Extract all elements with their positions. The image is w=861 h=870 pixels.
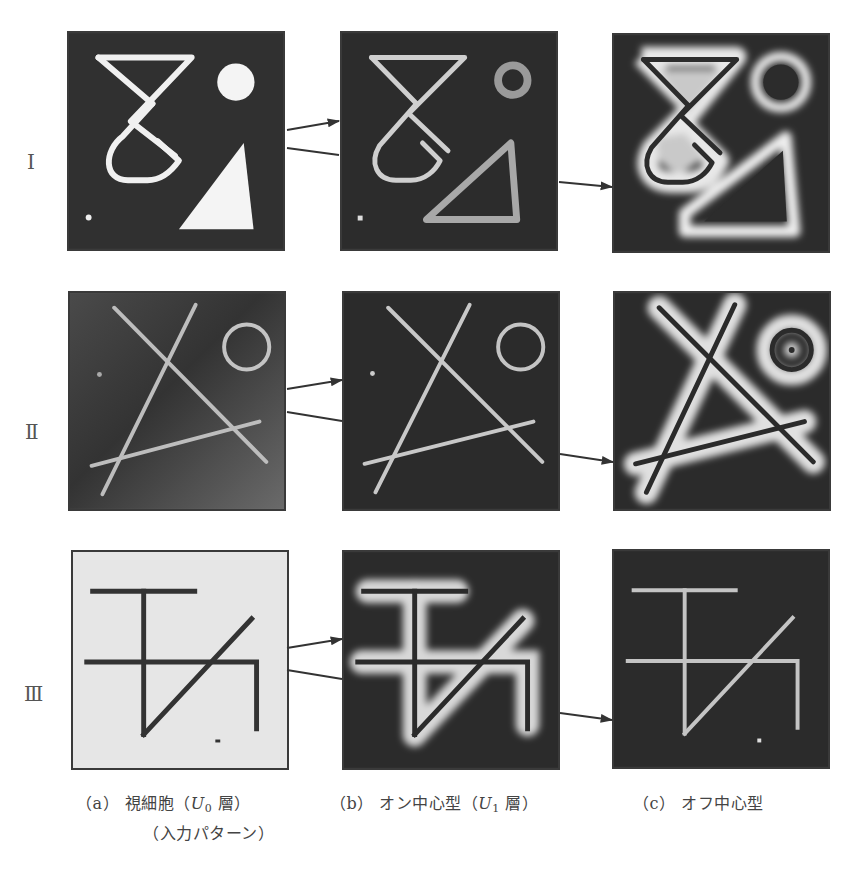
arrow-II-3	[287, 380, 342, 389]
panel-III-a-input	[71, 550, 289, 770]
panel-I-b-on-center	[340, 31, 558, 251]
caption-a-name: 視細胞（	[125, 794, 191, 813]
panel-II-a-input	[68, 291, 286, 511]
panel-I-b-image	[342, 33, 556, 249]
row-label-I: Ⅰ	[27, 150, 35, 174]
caption-b-var: U	[478, 794, 492, 813]
caption-a-sub: 0	[205, 802, 213, 815]
caption-b-name: オン中心型（	[379, 794, 478, 813]
caption-c-tag: （c）	[633, 794, 675, 813]
panel-II-c-image	[615, 293, 829, 509]
caption-b-tag: （b）	[330, 794, 374, 813]
panel-III-c-image	[614, 551, 828, 767]
panel-II-a-image	[70, 293, 284, 509]
arrow-III-8	[560, 713, 612, 720]
row-label-III: Ⅲ	[24, 682, 43, 706]
caption-b-layer: 層）	[500, 794, 539, 813]
panel-II-b-image	[344, 293, 558, 509]
caption-a-layer: 層）	[212, 794, 251, 813]
panel-III-b-image	[344, 552, 558, 768]
panel-III-b-on-center	[342, 550, 560, 770]
arrow-II-4	[287, 412, 342, 421]
caption-a-var: U	[191, 794, 205, 813]
caption-a-line2: （入力パターン）	[143, 820, 274, 844]
arrow-III-6	[287, 639, 342, 648]
caption-c: （c） オフ中心型	[633, 790, 764, 814]
row-label-II: Ⅱ	[25, 420, 39, 444]
caption-b: （b） オン中心型（U1 層）	[330, 790, 538, 815]
caption-a-tag: （a）	[76, 794, 119, 813]
panel-I-c-image	[614, 35, 828, 251]
arrow-II-5	[560, 454, 613, 462]
arrow-I-2	[559, 182, 612, 187]
panel-I-a-input	[67, 31, 285, 251]
caption-c-name: オフ中心型	[681, 794, 764, 813]
arrow-III-7	[287, 670, 342, 679]
arrow-I-1	[287, 148, 339, 155]
panel-I-a-image	[69, 33, 283, 249]
panel-II-c-off-center	[613, 291, 831, 511]
panel-II-b-on-center	[342, 291, 560, 511]
panel-III-c-off-center	[612, 549, 830, 769]
arrow-I-0	[287, 121, 339, 130]
caption-a: （a） 視細胞（U0 層）	[76, 790, 251, 815]
panel-III-a-image	[73, 552, 287, 768]
caption-b-sub: 1	[492, 802, 500, 815]
panel-I-c-off-center	[612, 33, 830, 253]
